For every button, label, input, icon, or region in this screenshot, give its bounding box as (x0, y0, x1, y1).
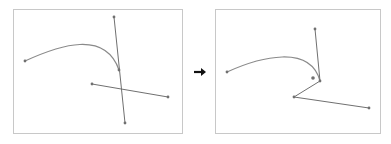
before-frame (14, 10, 183, 134)
before-control-point[interactable] (24, 60, 27, 63)
after-control-point[interactable] (314, 28, 317, 31)
right-arrow-icon (194, 68, 206, 76)
after-frame (216, 10, 381, 134)
diagram-canvas (0, 0, 391, 144)
after-control-point[interactable] (226, 71, 229, 74)
after-midpoint-dot[interactable] (311, 76, 315, 80)
before-control-point[interactable] (167, 96, 170, 99)
before-control-point[interactable] (124, 122, 127, 125)
before-control-point[interactable] (118, 69, 121, 72)
before-control-point[interactable] (113, 16, 116, 19)
after-panel (216, 10, 381, 134)
before-panel (14, 10, 183, 134)
before-control-point[interactable] (91, 83, 94, 86)
after-control-point[interactable] (319, 80, 322, 83)
after-control-point[interactable] (293, 96, 296, 99)
after-control-point[interactable] (368, 107, 371, 110)
